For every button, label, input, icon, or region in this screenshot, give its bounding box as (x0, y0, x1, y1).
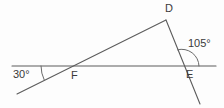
line-through-F-to-D (17, 20, 166, 94)
angle-label-30-degrees: 30° (13, 69, 30, 80)
geometry-canvas (0, 0, 224, 108)
vertex-label-f: F (71, 70, 78, 81)
vertex-label-e: E (186, 69, 193, 80)
vertex-label-d: D (165, 3, 173, 14)
line-D-through-E (166, 20, 200, 104)
geometry-figure: D E F 30° 105° (0, 0, 224, 108)
angle-label-105-degrees: 105° (188, 38, 211, 49)
angle-arc-30 (41, 66, 44, 80)
